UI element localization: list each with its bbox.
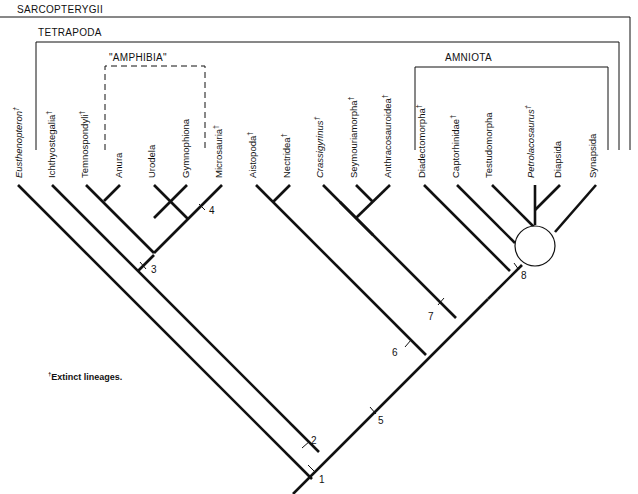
cladogram: SARCOPTERYGII TETRAPODA "AMPHIBIA" AMNIO…: [0, 0, 638, 494]
taxon-label: Anthracosauroidea†: [381, 94, 393, 178]
node-number-5: 5: [378, 415, 384, 426]
node-number-3: 3: [151, 264, 157, 275]
taxon-label: Aistopoda†: [246, 132, 258, 178]
taxon-label: Petrolacosaurus†: [524, 105, 536, 178]
footnote-text: Extinct lineages.: [51, 372, 122, 382]
taxon-label: Temnospondyli†: [78, 111, 90, 178]
group-label-amphibia: "AMPHIBIA": [109, 52, 167, 63]
taxon-labels: Eusthenopteron† Ichthyostegalia† Temnosp…: [12, 94, 598, 178]
taxon-label: Diadectomorpha†: [415, 104, 427, 178]
taxon-label: Microsauria†: [212, 125, 224, 178]
node-number-8: 8: [521, 270, 527, 281]
taxon-label: Eusthenopteron†: [12, 107, 24, 178]
group-label-sarcopterygii: SARCOPTERYGII: [17, 4, 103, 15]
taxon-label: Crassigyrinus†: [313, 116, 325, 178]
node-number-4: 4: [209, 205, 215, 216]
taxon-label: Ichthyostegalia†: [45, 111, 57, 178]
tree-branches: [18, 185, 596, 494]
taxon-label: Captorhinidae†: [449, 115, 461, 178]
node-numbers: 1 2 3 4 5 6 7 8: [151, 205, 527, 485]
taxon-label: Urodela: [146, 144, 157, 178]
synapomorphy-ticks: [140, 204, 519, 473]
node-number-7: 7: [428, 311, 434, 322]
taxon-label: Seymouriamorpha†: [347, 96, 359, 178]
node-number-6: 6: [392, 347, 398, 358]
taxon-label: Testudomorpha: [483, 112, 494, 178]
group-label-tetrapoda: TETRAPODA: [38, 27, 102, 38]
node-number-2: 2: [311, 435, 317, 446]
polytomy-node: [515, 226, 555, 266]
taxon-label: Gymnophiona: [180, 118, 191, 178]
amniota-bracket: [415, 67, 608, 150]
taxon-label: Anura: [113, 152, 124, 178]
taxon-label: Nectridea†: [280, 133, 292, 178]
taxon-label: Synapsida: [587, 133, 598, 178]
node-number-1: 1: [319, 474, 325, 485]
taxon-label: Diapsida: [552, 140, 563, 178]
footnote: †Extinct lineages.: [48, 371, 122, 382]
group-label-amniota: AMNIOTA: [445, 52, 492, 63]
